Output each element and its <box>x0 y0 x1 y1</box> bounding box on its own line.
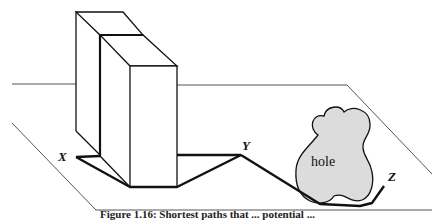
front-box <box>100 35 177 187</box>
figure-caption: Figure 1.16: Shortest paths that ... pot… <box>100 208 400 220</box>
label-z: Z <box>387 169 396 184</box>
label-hole: hole <box>311 154 335 169</box>
label-y: Y <box>242 138 251 153</box>
shortest-path-diagram: X Y Z hole Figure 1.16: Shortest paths t… <box>0 0 444 220</box>
diagram-canvas: X Y Z hole <box>0 0 444 220</box>
label-x: X <box>57 149 67 164</box>
